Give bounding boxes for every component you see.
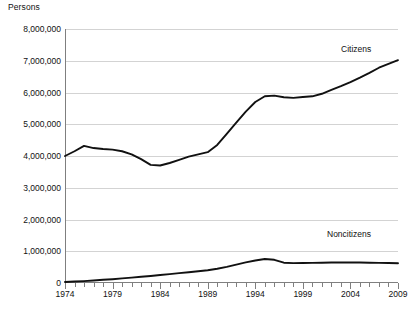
x-axis-tick [84, 283, 85, 287]
x-axis-tick [265, 283, 266, 287]
figure-container: Persons 8,000,0007,000,0006,000,0005,000… [0, 0, 417, 313]
x-axis-tick [94, 283, 95, 287]
y-axis-tick-labels: 8,000,0007,000,0006,000,0005,000,0004,00… [0, 29, 61, 283]
series-label-citizens: Citizens [341, 44, 371, 54]
series-line-noncitizens [65, 259, 398, 282]
y-axis-tick-label: 8,000,000 [23, 24, 61, 34]
y-axis-tick-label: 5,000,000 [23, 119, 61, 129]
x-axis-tick [360, 283, 361, 287]
y-axis-tick-label: 0 [56, 278, 61, 288]
x-axis-tick [369, 283, 370, 287]
y-axis-tick-label: 2,000,000 [23, 215, 61, 225]
x-axis-tick-labels: 19741979198419891994199920042009 [0, 289, 417, 303]
series-line-citizens [65, 60, 398, 165]
x-axis-tick [198, 283, 199, 287]
x-axis-tick [293, 283, 294, 287]
x-axis-tick-label: 1999 [293, 289, 312, 299]
x-axis-tick [379, 283, 380, 287]
x-axis-tick [236, 283, 237, 287]
x-axis-tick [331, 283, 332, 287]
x-axis-tick [103, 283, 104, 287]
x-axis-tick [122, 283, 123, 287]
y-axis-tick-label: 4,000,000 [23, 151, 61, 161]
x-axis-tick-label: 1994 [246, 289, 265, 299]
x-axis-tick [170, 283, 171, 287]
x-axis-tick [322, 283, 323, 287]
x-axis-tick-label: 1974 [56, 289, 75, 299]
x-axis-tick-label: 2009 [389, 289, 408, 299]
y-axis-tick-label: 6,000,000 [23, 88, 61, 98]
x-axis-tick [341, 283, 342, 287]
x-axis-tick [246, 283, 247, 287]
x-axis-tick [179, 283, 180, 287]
x-axis-tick [189, 283, 190, 287]
x-axis-tick [141, 283, 142, 287]
x-axis-tick [388, 283, 389, 287]
x-axis-tick [75, 283, 76, 287]
x-axis-tick [274, 283, 275, 287]
x-axis-tick [284, 283, 285, 287]
x-axis-tick-label: 1989 [198, 289, 217, 299]
x-axis-tick [217, 283, 218, 287]
y-axis-tick-label: 3,000,000 [23, 183, 61, 193]
y-axis-tick-label: 1,000,000 [23, 246, 61, 256]
y-axis-tick-label: 7,000,000 [23, 56, 61, 66]
x-axis-tick [151, 283, 152, 287]
x-axis-tick [132, 283, 133, 287]
x-axis-tick [227, 283, 228, 287]
series-plot [65, 29, 398, 283]
x-axis-tick-label: 1984 [151, 289, 170, 299]
x-axis-tick-label: 2004 [341, 289, 360, 299]
x-axis-tick-label: 1979 [103, 289, 122, 299]
x-axis-tick [312, 283, 313, 287]
series-label-noncitizens: Noncitizens [327, 229, 371, 239]
y-axis-title: Persons [8, 2, 40, 12]
